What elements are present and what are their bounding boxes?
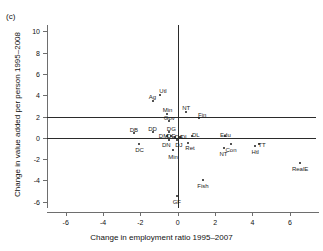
data-point-label: GF bbox=[173, 199, 181, 205]
data-point bbox=[223, 147, 225, 149]
scatter-plot-figure: (c) -6-4-20246810 -6-4-20246 UtlAgMinNTF… bbox=[0, 0, 323, 251]
vertical-reference-line bbox=[178, 25, 179, 208]
x-tick-label: 6 bbox=[280, 219, 300, 226]
data-point-label: NT bbox=[182, 105, 190, 111]
data-point-label: TT bbox=[258, 142, 265, 148]
data-point bbox=[185, 111, 187, 113]
y-tick-label: 4 bbox=[36, 92, 40, 99]
x-tick bbox=[140, 212, 141, 216]
data-point bbox=[202, 179, 204, 181]
data-point-label: DL bbox=[192, 132, 200, 138]
data-point-label: Min bbox=[168, 154, 178, 160]
x-tick-label: 4 bbox=[242, 219, 262, 226]
data-point-label: Ag bbox=[149, 94, 156, 100]
y-tick-label: 6 bbox=[36, 71, 40, 78]
x-axis-line bbox=[47, 212, 319, 213]
data-point-label: Htl bbox=[252, 149, 259, 155]
data-point-label: NT bbox=[220, 151, 228, 157]
x-tick-label: 2 bbox=[205, 219, 225, 226]
data-point bbox=[168, 139, 170, 141]
data-point-label: DG bbox=[167, 126, 176, 132]
x-tick bbox=[66, 212, 67, 216]
y-tick-label: 10 bbox=[32, 28, 40, 35]
data-point bbox=[230, 143, 232, 145]
data-point-label: DN bbox=[162, 142, 171, 148]
data-point-label: DC bbox=[135, 147, 144, 153]
x-tick bbox=[178, 212, 179, 216]
data-point-label: Fish bbox=[197, 183, 208, 189]
y-tick-label: -4 bbox=[34, 177, 40, 184]
data-point-label: Min bbox=[163, 107, 173, 113]
x-tick-label: -2 bbox=[130, 219, 150, 226]
data-point bbox=[159, 94, 161, 96]
x-tick bbox=[103, 212, 104, 216]
data-point bbox=[172, 149, 174, 151]
y-tick-label: 2 bbox=[36, 114, 40, 121]
x-tick bbox=[290, 212, 291, 216]
horizontal-reference-line bbox=[47, 117, 316, 118]
y-tick-label: -2 bbox=[34, 156, 40, 163]
x-tick-label: 0 bbox=[168, 219, 188, 226]
y-tick-label: -6 bbox=[34, 199, 40, 206]
data-point bbox=[152, 100, 154, 102]
data-point bbox=[176, 195, 178, 197]
data-point bbox=[254, 145, 256, 147]
data-point-label: Fin bbox=[198, 112, 206, 118]
x-axis-title: Change in employment ratio 1995–2007 bbox=[0, 233, 323, 242]
data-point-label: DB bbox=[130, 127, 138, 133]
data-point bbox=[138, 143, 140, 145]
x-tick bbox=[252, 212, 253, 216]
data-point bbox=[299, 162, 301, 164]
data-point-label: RealE bbox=[292, 166, 308, 172]
y-tick-label: 0 bbox=[36, 135, 40, 142]
x-tick bbox=[215, 212, 216, 216]
data-point-label: Edu bbox=[220, 132, 231, 138]
y-axis-title: Change in value added per person 1995–20… bbox=[13, 20, 22, 210]
data-point-label: DJ bbox=[175, 142, 182, 148]
data-point-label: Ret bbox=[185, 145, 194, 151]
y-tick-label: 8 bbox=[36, 50, 40, 57]
plot-area: UtlAgMinNTFinGovDBDDDGDCDMDEDADIDLDNDJRe… bbox=[47, 25, 316, 208]
data-point-label: Utl bbox=[159, 88, 166, 94]
x-tick-label: -6 bbox=[56, 219, 76, 226]
data-point bbox=[187, 142, 189, 144]
data-point-label: Gov bbox=[164, 115, 175, 121]
x-tick-label: -4 bbox=[93, 219, 113, 226]
data-point-label: DI bbox=[181, 134, 187, 140]
data-point-label: DD bbox=[148, 126, 157, 132]
